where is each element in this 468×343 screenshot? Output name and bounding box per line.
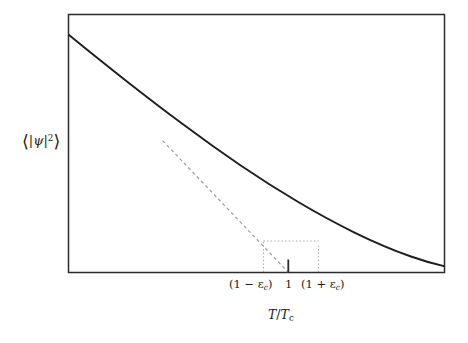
- tangent-line: [163, 141, 288, 272]
- y-axis-label-open-bracket: ⟨: [22, 131, 29, 151]
- plot-svg: [0, 0, 468, 343]
- y-axis-label: ⟨|ψ|2⟩: [22, 133, 60, 151]
- x-tick-left-close: ): [268, 277, 273, 291]
- plot-frame: [69, 15, 445, 273]
- x-tick-left-open: (1 − ε: [229, 277, 264, 291]
- y-axis-label-close-bracket: ⟩: [53, 131, 60, 151]
- x-axis-title: T/Tc: [268, 309, 294, 322]
- x-axis-title-denominator: T: [281, 307, 289, 322]
- y-axis-label-body: |ψ|: [29, 133, 48, 148]
- x-tick-right-close: ): [340, 277, 345, 291]
- x-axis-title-subscript: c: [289, 313, 294, 323]
- order-parameter-curve: [69, 35, 444, 266]
- x-tick-right-open: (1 + ε: [301, 277, 336, 291]
- x-tick-label-middle: 1: [285, 279, 292, 291]
- x-tick-label-right: (1 + εc): [301, 279, 345, 292]
- figure-container: ⟨|ψ|2⟩ (1 − εc) 1 (1 + εc) T/Tc: [0, 0, 468, 343]
- x-tick-label-left: (1 − εc): [229, 279, 273, 292]
